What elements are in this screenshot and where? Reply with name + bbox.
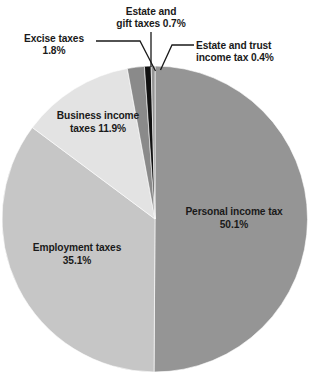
pie-chart: Estate and gift taxes 0.7% Excise taxes …: [0, 0, 314, 382]
slice-label-estate-and-trust-income-tax: Estate and trust income tax 0.4%: [196, 40, 312, 65]
slice-label-excise-taxes: Excise taxes 1.8%: [6, 33, 102, 58]
slice-label-estate-and-gift-taxes: Estate and gift taxes 0.7%: [93, 6, 209, 31]
slice-label-employment-taxes: Employment taxes 35.1%: [18, 242, 136, 267]
leader-line-group: [96, 32, 194, 71]
slice-label-personal-income-tax: Personal income tax 50.1%: [174, 206, 294, 231]
slice-label-business-income-taxes: Business income taxes 11.9%: [41, 110, 155, 135]
